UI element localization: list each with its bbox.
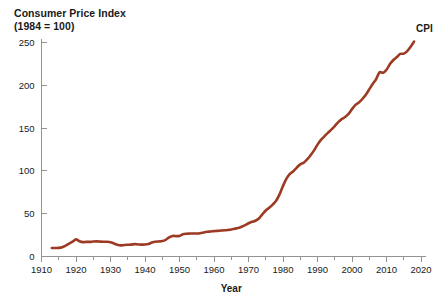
x-tick-label: 1920 <box>65 264 86 275</box>
y-tick-label: 0 <box>29 251 34 262</box>
series-line-cpi <box>52 42 414 248</box>
cpi-line-chart: Consumer Price Index (1984 = 100) 050100… <box>0 0 437 298</box>
x-tick-label: 1990 <box>307 264 328 275</box>
x-axis-title: Year <box>221 283 242 294</box>
x-tick-label: 1940 <box>134 264 155 275</box>
y-tick-label: 150 <box>19 123 35 134</box>
y-axis-group: 050100150200250 <box>19 37 47 262</box>
data-series-group: CPI <box>52 23 433 248</box>
y-tick-label: 50 <box>24 208 35 219</box>
x-tick-labels: 1910192019301940195019601970198019902000… <box>31 264 432 275</box>
x-tick-label: 1950 <box>169 264 190 275</box>
x-tick-label: 1930 <box>100 264 121 275</box>
y-tick-label: 250 <box>19 37 35 48</box>
x-tick-label: 2020 <box>410 264 431 275</box>
x-axis-group: 1910192019301940195019601970198019902000… <box>31 257 432 294</box>
x-tick-label: 2010 <box>376 264 397 275</box>
y-tick-labels: 050100150200250 <box>19 37 35 262</box>
chart-canvas: 050100150200250 191019201930194019501960… <box>0 0 437 298</box>
y-tick-label: 200 <box>19 80 35 91</box>
x-tick-label: 1910 <box>31 264 52 275</box>
y-tick-label: 100 <box>19 165 35 176</box>
series-label-cpi: CPI <box>416 23 433 34</box>
x-tick-label: 1960 <box>203 264 224 275</box>
x-tick-label: 2000 <box>341 264 362 275</box>
y-tick-marks <box>42 43 47 257</box>
x-tick-label: 1970 <box>238 264 259 275</box>
x-tick-label: 1980 <box>272 264 293 275</box>
